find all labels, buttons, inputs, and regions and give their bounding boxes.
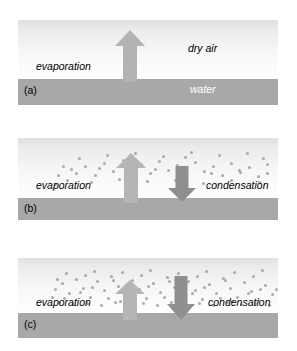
vapor-dot bbox=[252, 275, 255, 278]
water-region-c bbox=[18, 313, 278, 338]
vapor-dot bbox=[79, 291, 82, 294]
vapor-dot bbox=[218, 154, 221, 157]
panel-tag-b: (b) bbox=[24, 202, 37, 214]
panel-c: evaporation condensation (c) bbox=[18, 258, 278, 338]
vapor-dot bbox=[246, 152, 249, 155]
vapor-dot bbox=[91, 286, 94, 289]
vapor-dot bbox=[224, 279, 227, 282]
vapor-dot bbox=[156, 304, 159, 307]
vapor-dot bbox=[106, 154, 109, 157]
vapor-dot bbox=[103, 289, 106, 292]
vapor-dot bbox=[70, 168, 73, 171]
arrow-shaft bbox=[124, 167, 138, 203]
vapor-dot bbox=[110, 275, 113, 278]
vapor-dot bbox=[62, 165, 65, 168]
label-evaporation-a: evaporation bbox=[36, 60, 91, 72]
vapor-dot bbox=[121, 271, 124, 274]
label-evaporation-b: evaporation bbox=[36, 179, 91, 191]
panel-a: evaporation dry air water (a) bbox=[18, 20, 278, 105]
vapor-dot bbox=[198, 302, 201, 305]
vapor-dot bbox=[61, 282, 64, 285]
vapor-dot bbox=[243, 281, 246, 284]
vapor-dot bbox=[221, 174, 224, 177]
vapor-dot bbox=[159, 291, 162, 294]
vapor-dot bbox=[154, 168, 157, 171]
vapor-dot bbox=[271, 293, 274, 296]
vapor-dot bbox=[203, 286, 206, 289]
evaporation-arrow-b bbox=[114, 153, 148, 203]
arrow-shaft bbox=[175, 276, 188, 305]
label-water-a: water bbox=[190, 83, 216, 95]
arrow-head-icon bbox=[116, 153, 146, 168]
vapor-dot bbox=[184, 156, 187, 159]
vapor-dot bbox=[194, 161, 197, 164]
condensation-arrow-b bbox=[166, 166, 198, 202]
vapor-dot bbox=[250, 290, 253, 293]
vapor-dot bbox=[262, 157, 265, 160]
arrow-head-icon bbox=[167, 304, 195, 320]
arrow-shaft bbox=[176, 166, 189, 189]
vapor-dot bbox=[205, 270, 208, 273]
vapor-dot bbox=[57, 174, 60, 177]
vapor-dot bbox=[147, 285, 150, 288]
vapor-dot bbox=[266, 172, 269, 175]
vapor-dot bbox=[215, 292, 218, 295]
vapor-dot bbox=[140, 274, 143, 277]
vapor-dot bbox=[82, 287, 85, 290]
panel-tag-c: (c) bbox=[24, 318, 36, 330]
vapor-dot bbox=[152, 282, 155, 285]
vapor-dot bbox=[212, 165, 215, 168]
arrow-head-icon bbox=[168, 188, 196, 202]
vapor-dot bbox=[210, 172, 213, 175]
vapor-dot bbox=[75, 172, 78, 175]
figure-evaporation-condensation: evaporation dry air water (a) evaporatio… bbox=[0, 0, 297, 351]
label-condensation-c: condensation bbox=[208, 296, 270, 308]
vapor-dot bbox=[158, 160, 161, 163]
vapor-dot bbox=[162, 155, 165, 158]
vapor-dot bbox=[177, 272, 180, 275]
vapor-dot bbox=[103, 162, 106, 165]
evaporation-arrow-c bbox=[114, 280, 146, 320]
panel-tag-a: (a) bbox=[24, 84, 37, 96]
vapor-dot bbox=[96, 280, 99, 283]
label-evaporation-c: evaporation bbox=[36, 296, 91, 308]
vapor-dot bbox=[94, 174, 97, 177]
vapor-dot bbox=[261, 269, 264, 272]
vapor-dot bbox=[259, 288, 262, 291]
vapor-dot bbox=[275, 288, 278, 291]
vapor-dot bbox=[266, 163, 269, 166]
arrow-shaft bbox=[123, 44, 137, 82]
vapor-dot bbox=[238, 169, 241, 172]
vapor-dot bbox=[203, 170, 206, 173]
vapor-dot bbox=[68, 292, 71, 295]
vapor-dot bbox=[84, 165, 87, 168]
panel-b: evaporation condensation (b) bbox=[18, 138, 278, 220]
vapor-dot bbox=[257, 175, 260, 178]
vapor-dot bbox=[56, 278, 59, 281]
vapor-dot bbox=[247, 292, 250, 295]
vapor-dot bbox=[229, 287, 232, 290]
vapor-dot bbox=[202, 182, 205, 185]
arrow-head-icon bbox=[115, 280, 145, 294]
vapor-dot bbox=[190, 151, 193, 154]
water-region-a bbox=[18, 79, 278, 105]
vapor-dot bbox=[149, 172, 152, 175]
vapor-dot bbox=[107, 297, 110, 300]
label-condensation-b: condensation bbox=[206, 179, 268, 191]
vapor-dot bbox=[248, 166, 251, 169]
vapor-dot bbox=[98, 167, 101, 170]
vapor-dot bbox=[78, 157, 81, 160]
vapor-dot bbox=[201, 298, 204, 301]
vapor-dot bbox=[264, 284, 267, 287]
vapor-dot bbox=[233, 271, 236, 274]
evaporation-arrow-a bbox=[112, 30, 148, 82]
condensation-arrow-c bbox=[164, 276, 198, 320]
vapor-dot bbox=[230, 162, 233, 165]
label-dry-air-a: dry air bbox=[188, 42, 217, 54]
vapor-dot bbox=[208, 283, 211, 286]
vapor-dot bbox=[65, 272, 68, 275]
vapor-dot bbox=[93, 270, 96, 273]
water-region-b bbox=[18, 198, 278, 220]
vapor-dot bbox=[149, 269, 152, 272]
vapor-dot bbox=[84, 274, 87, 277]
